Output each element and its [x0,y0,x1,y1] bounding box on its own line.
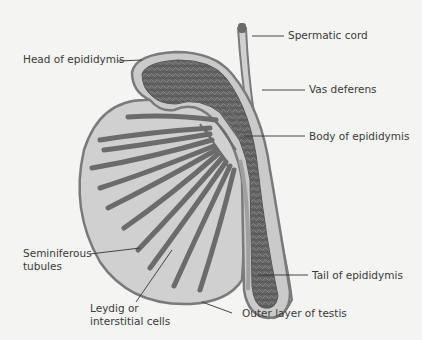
label-seminiferous-tubules: Seminiferous tubules [23,247,92,273]
label-leydig-line1: Leydig or [90,302,170,315]
label-seminiferous-line1: Seminiferous [23,247,92,260]
label-tail-of-epididymis: Tail of epididymis [312,269,403,282]
label-head-of-epididymis: Head of epididymis [23,53,124,66]
testis-diagram: Spermatic cord Head of epididymis Vas de… [0,0,422,340]
label-vas-deferens: Vas deferens [309,83,377,96]
diagram-illustration [0,0,422,340]
label-body-of-epididymis: Body of epididymis [309,130,409,143]
label-seminiferous-line2: tubules [23,260,92,273]
label-spermatic-cord: Spermatic cord [288,29,368,42]
label-leydig-line2: interstitial cells [90,315,170,328]
label-leydig-cells: Leydig or interstitial cells [90,302,170,328]
label-outer-layer-of-testis: Outer layer of testis [242,307,347,320]
